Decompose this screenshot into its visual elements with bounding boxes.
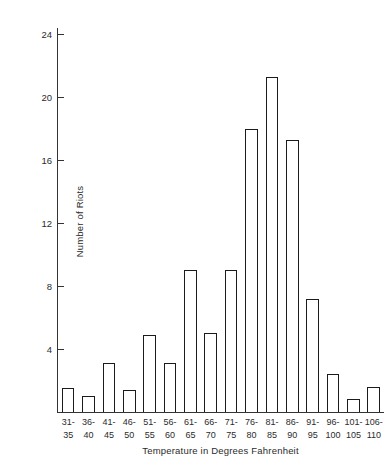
histogram-figure: 4812162024 Number of Riots 31-3536-4041-… <box>0 0 392 465</box>
x-axis-tick-label: 106-110 <box>360 416 388 441</box>
y-axis-tick-label: 24 <box>8 28 52 39</box>
bar <box>143 335 156 412</box>
x-axis-tick-label-upper: 106- <box>360 416 388 429</box>
bar <box>184 270 197 412</box>
bar <box>245 129 258 413</box>
y-axis-tick-label: 16 <box>8 154 52 165</box>
y-axis-tick-label: 8 <box>8 280 52 291</box>
bar <box>204 333 217 412</box>
bar <box>266 77 279 412</box>
bar <box>62 388 75 412</box>
bar-series <box>58 28 384 412</box>
bar <box>103 363 116 412</box>
y-axis-tick-label: 4 <box>8 343 52 354</box>
bar <box>225 270 238 412</box>
bar <box>164 363 177 412</box>
y-axis-tick-label: 20 <box>8 91 52 102</box>
y-axis-tick-label: 12 <box>8 217 52 228</box>
bar <box>123 390 136 412</box>
bar <box>367 387 380 412</box>
bar <box>82 396 95 412</box>
x-axis-tick-label-lower: 110 <box>360 429 388 442</box>
x-axis-title: Temperature in Degrees Fahrenheit <box>57 445 384 456</box>
bar <box>327 374 340 412</box>
bar <box>347 399 360 412</box>
bar <box>306 299 319 412</box>
bar <box>286 140 299 412</box>
